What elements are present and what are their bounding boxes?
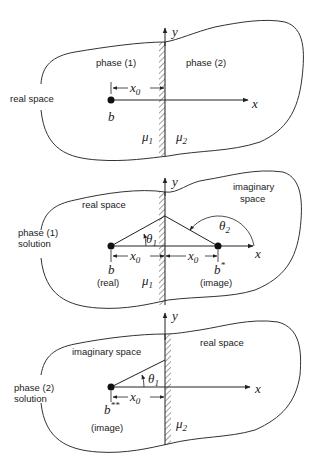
distance-label: x0: [129, 80, 141, 97]
y-axis-label: y: [170, 308, 178, 323]
point-b-label: b: [108, 109, 115, 124]
phase-2-label: phase (2): [186, 57, 226, 68]
side-label-line1: phase (1): [18, 227, 58, 238]
interface-hatch: [159, 42, 165, 156]
point-b-note: (real): [97, 277, 119, 288]
panel-1: x0 real space phase (1) phase (2) y x b …: [10, 20, 303, 160]
imaginary-label-line1: imaginary: [233, 181, 274, 192]
interface-hatch: [159, 192, 165, 305]
point-b-double-star-label: b**: [104, 400, 120, 417]
point-b-star-label: b*: [214, 260, 226, 277]
phase-1-label: phase (1): [96, 57, 136, 68]
dislocation-point-b-double-star: [108, 384, 115, 391]
boundary-outline-panel-1: [41, 20, 303, 160]
real-space-label: real space: [82, 199, 126, 210]
line-b-to-interface: [111, 216, 165, 246]
x-axis-label: x: [251, 96, 258, 111]
theta-1-arc: [142, 375, 144, 387]
mu-1-label: μ1: [141, 129, 153, 146]
panel-3: x0 phase (2) solution imaginary space re…: [14, 308, 301, 452]
theta-1-label: θ1: [146, 231, 157, 248]
side-label-line2: solution: [18, 238, 51, 249]
image-dislocation-diagram: x0 real space phase (1) phase (2) y x b …: [0, 0, 316, 470]
dislocation-point-b: [108, 97, 115, 104]
mu-1-label: μ1: [141, 273, 153, 290]
x-axis-label: x: [254, 381, 261, 396]
theta-1-label: θ1: [148, 371, 159, 388]
theta-2-label: θ2: [219, 218, 230, 235]
mu-2-label: μ2: [175, 129, 188, 146]
point-b-star-note: (image): [200, 277, 232, 288]
distance-label-right: x0: [187, 248, 199, 265]
interface-hatch: [165, 334, 171, 445]
real-space-label: real space: [200, 337, 244, 348]
side-label-line1: phase (2): [14, 382, 54, 393]
x-axis-label: x: [254, 246, 261, 261]
dislocation-point-b-image: [215, 243, 222, 250]
distance-label-left: x0: [129, 248, 141, 265]
imaginary-space-label: imaginary space: [72, 346, 141, 357]
mu-2-label: μ2: [175, 416, 188, 433]
dislocation-point-b-real: [108, 243, 115, 250]
imaginary-label-line2: space: [240, 193, 265, 204]
region-label: real space: [10, 93, 54, 104]
side-label-line2: solution: [14, 393, 47, 404]
line-interface-to-image: [165, 216, 218, 246]
point-b-double-star-note: (image): [91, 422, 123, 433]
y-axis-label: y: [170, 24, 178, 39]
y-axis-label: y: [170, 174, 178, 189]
distance-label: x0: [129, 389, 141, 406]
panel-2: x0 x0 phase (1) solution real space imag…: [18, 171, 301, 308]
point-b-label: b: [108, 262, 115, 277]
